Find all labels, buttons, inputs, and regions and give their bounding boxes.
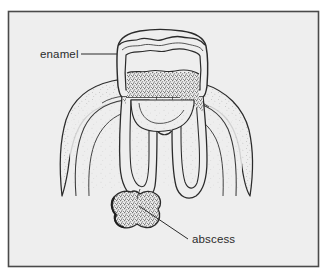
tooth-abscess-illustration: enamel abscess bbox=[0, 0, 328, 277]
figure-container: enamel abscess bbox=[0, 0, 328, 277]
abscess-outline bbox=[111, 191, 160, 228]
enamel-label-text: enamel bbox=[40, 48, 79, 60]
crown-dentin bbox=[127, 69, 199, 97]
abscess-mass bbox=[111, 189, 160, 228]
abscess-label-text: abscess bbox=[192, 233, 235, 245]
